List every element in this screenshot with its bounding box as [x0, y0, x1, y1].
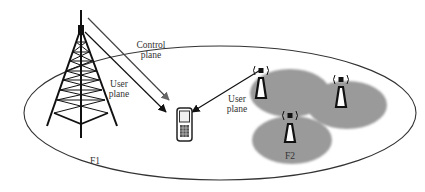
macro-tower-icon: [47, 10, 117, 138]
macro-user-plane-label-line1: User: [104, 79, 134, 89]
macro-cell-label: F1: [90, 156, 100, 166]
small-cell-label: F2: [285, 151, 295, 161]
small-cell-user-plane-label-line2: plane: [222, 104, 252, 114]
control-plane-label-line1: Control: [129, 40, 173, 50]
small-cell-coverage-2: [307, 81, 387, 129]
small-cell-user-plane-label-line1: User: [222, 94, 252, 104]
macro-user-plane-label-line2: plane: [104, 89, 134, 99]
diagram-canvas: Control plane User plane User plane F1 F…: [0, 0, 425, 192]
macro-user-plane-label: User plane: [104, 79, 134, 99]
control-plane-label-line2: plane: [129, 50, 173, 60]
diagram-svg: [0, 0, 425, 192]
control-plane-label: Control plane: [129, 40, 173, 60]
small-cell-coverage-group: [250, 69, 387, 164]
mobile-phone-icon: [177, 108, 192, 141]
small-cell-user-plane-label: User plane: [222, 94, 252, 114]
